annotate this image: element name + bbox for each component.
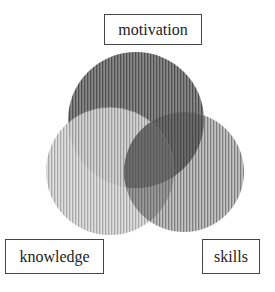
knowledge-label: knowledge xyxy=(5,239,104,274)
motivation-label: motivation xyxy=(104,14,202,45)
skills-label: skills xyxy=(202,239,260,274)
